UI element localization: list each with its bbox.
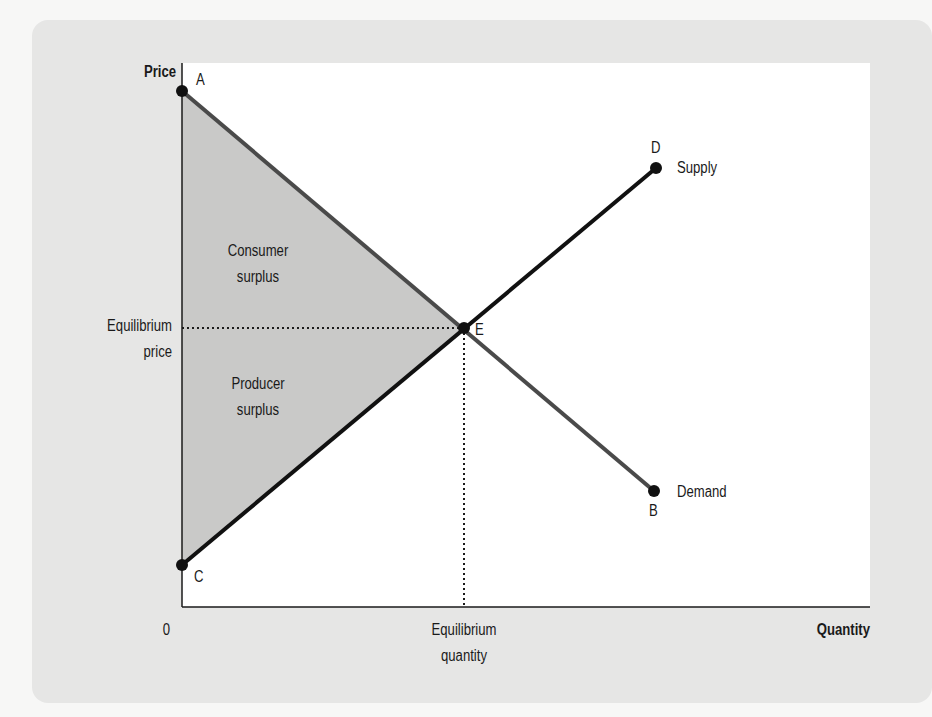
origin-label: 0 [163, 620, 170, 640]
demand-label: Demand [677, 482, 727, 502]
point-b-label: B [649, 501, 658, 521]
equilibrium-price-label-line2: price [80, 342, 172, 362]
x-axis-label: Quantity [788, 620, 870, 640]
point-c-label: C [194, 567, 203, 587]
point-e-label: E [475, 320, 484, 340]
point-d-label: D [651, 138, 660, 158]
equilibrium-quantity-label-line1: Equilibrium [415, 620, 513, 640]
equilibrium-quantity-label-line2: quantity [415, 646, 513, 666]
point-c-marker [176, 559, 188, 571]
y-axis-label: Price [130, 62, 176, 82]
consumer-surplus-label-line1: Consumer [221, 241, 295, 261]
producer-surplus-label-line2: surplus [221, 400, 295, 420]
point-a-marker [176, 85, 188, 97]
point-a-label: A [196, 70, 205, 90]
equilibrium-price-label-line1: Equilibrium [80, 316, 172, 336]
consumer-surplus-label-line2: surplus [221, 267, 295, 287]
point-e-marker [458, 322, 470, 334]
point-d-marker [650, 162, 662, 174]
point-b-marker [648, 485, 660, 497]
producer-surplus-label-line1: Producer [221, 374, 295, 394]
supply-label: Supply [677, 158, 717, 178]
